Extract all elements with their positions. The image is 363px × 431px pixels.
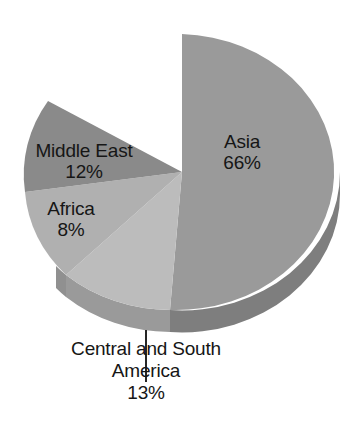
slice-label-central-south-america-name-line2: America xyxy=(6,360,286,382)
slice-label-central-south-america-name-line1: Central and South xyxy=(6,338,286,360)
slice-label-central-south-america: Central and South America 13% xyxy=(6,338,286,404)
pie-chart: Asia 66% Middle East 12% Africa 8% Centr… xyxy=(0,0,363,431)
slice-label-africa-percent: 8% xyxy=(16,219,126,240)
slice-label-africa-name: Africa xyxy=(16,198,126,219)
slice-label-middle-east-percent: 12% xyxy=(12,161,156,182)
slice-label-asia-percent: 66% xyxy=(196,152,288,173)
slice-label-asia-name: Asia xyxy=(196,131,288,152)
slice-label-central-south-america-percent: 13% xyxy=(6,382,286,404)
slice-label-asia: Asia 66% xyxy=(196,131,288,174)
slice-label-middle-east-name: Middle East xyxy=(12,140,156,161)
slice-label-middle-east: Middle East 12% xyxy=(12,140,156,183)
slice-label-africa: Africa 8% xyxy=(16,198,126,241)
